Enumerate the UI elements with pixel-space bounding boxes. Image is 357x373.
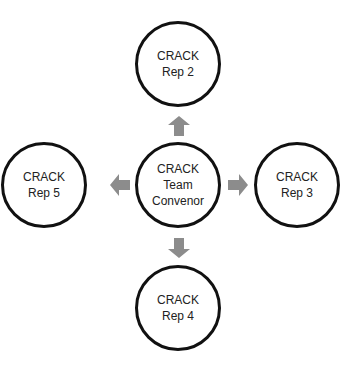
node-convenor-line3: Convenor [152, 193, 204, 209]
node-rep4: CRACK Rep 4 [135, 265, 221, 351]
node-rep3: CRACK Rep 3 [254, 142, 340, 228]
arrow-left-icon [110, 174, 130, 196]
node-rep5: CRACK Rep 5 [1, 142, 87, 228]
node-rep4-line2: Rep 4 [162, 308, 194, 324]
arrow-down-icon [168, 238, 190, 258]
node-convenor-line2: Team [163, 177, 192, 193]
arrow-up-icon [168, 116, 190, 136]
node-rep5-line2: Rep 5 [28, 185, 60, 201]
node-rep2: CRACK Rep 2 [135, 21, 221, 107]
node-rep4-line1: CRACK [157, 292, 199, 308]
node-convenor-line1: CRACK [157, 161, 199, 177]
node-convenor: CRACK Team Convenor [135, 142, 221, 228]
node-rep2-line1: CRACK [157, 48, 199, 64]
arrow-right-icon [228, 174, 248, 196]
node-rep3-line1: CRACK [276, 169, 318, 185]
node-rep2-line2: Rep 2 [162, 64, 194, 80]
node-rep3-line2: Rep 3 [281, 185, 313, 201]
node-rep5-line1: CRACK [23, 169, 65, 185]
